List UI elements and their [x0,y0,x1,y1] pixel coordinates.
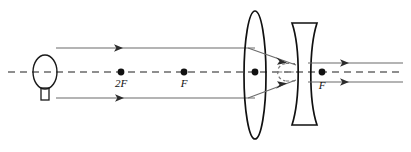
point-F-left [181,69,188,76]
label-F-right: F [318,79,326,91]
converging-ray-top [248,48,296,65]
optics-diagram-svg: 2F F F [0,0,411,152]
diverging-lens-body [292,23,317,125]
label-F-left: F [180,77,188,89]
optics-diagram-root: 2F F F [0,0,411,152]
diverging-lens [292,23,317,125]
point-F-right [319,69,326,76]
converging-ray-bottom-arrow [276,81,287,89]
incoming-rays-group [56,44,255,102]
point-2F-left [118,69,125,76]
point-lens-center [252,69,259,76]
light-bulb-source [33,55,57,100]
label-2F-left: 2F [115,77,128,89]
light-bulb-base [41,88,49,100]
axis-points-group [118,69,326,76]
converging-ray-bottom [248,80,296,98]
